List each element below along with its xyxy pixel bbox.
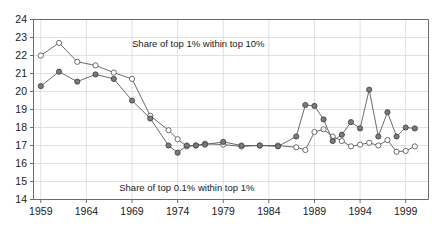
data-point-marker xyxy=(166,128,171,133)
data-point-marker xyxy=(75,79,80,84)
x-axis-tick-label: 1969 xyxy=(120,205,144,217)
data-point-marker xyxy=(56,69,61,74)
data-point-marker xyxy=(394,134,399,139)
series-annotation-label: Share of top 1% within top 10% xyxy=(132,38,265,49)
data-point-marker xyxy=(257,143,262,148)
data-point-marker xyxy=(394,149,399,154)
data-point-marker xyxy=(412,144,417,149)
data-point-marker xyxy=(303,147,308,152)
series-line xyxy=(41,43,415,152)
x-axis-tick-label: 1959 xyxy=(29,205,53,217)
data-point-marker xyxy=(38,53,43,58)
x-axis-tick-label: 1999 xyxy=(394,205,418,217)
data-point-marker xyxy=(312,129,317,134)
data-series xyxy=(38,40,417,155)
series-line xyxy=(41,72,415,153)
data-point-marker xyxy=(348,120,353,125)
data-point-marker xyxy=(129,76,134,81)
data-point-marker xyxy=(148,116,153,121)
data-point-marker xyxy=(111,70,116,75)
data-point-marker xyxy=(321,127,326,132)
data-point-marker xyxy=(221,139,226,144)
data-point-marker xyxy=(376,134,381,139)
data-point-marker xyxy=(184,143,189,148)
annotations: Share of top 1% within top 10%Share of t… xyxy=(119,38,265,193)
y-axis-tick-label: 20 xyxy=(15,85,27,97)
data-point-marker xyxy=(357,126,362,131)
x-axis-tick-label: 1979 xyxy=(212,205,236,217)
x-axis-tick-label: 1984 xyxy=(257,205,281,217)
data-point-marker xyxy=(385,138,390,143)
data-point-marker xyxy=(93,63,98,68)
data-point-marker xyxy=(56,40,61,45)
data-point-marker xyxy=(129,98,134,103)
y-axis-tick-label: 21 xyxy=(15,67,27,79)
data-point-marker xyxy=(175,137,180,142)
data-point-marker xyxy=(403,148,408,153)
data-point-marker xyxy=(321,117,326,122)
data-point-marker xyxy=(75,59,80,64)
data-point-marker xyxy=(348,144,353,149)
x-axis-tick-label: 1964 xyxy=(75,205,99,217)
y-axis-tick-label: 15 xyxy=(15,175,27,187)
data-point-marker xyxy=(376,143,381,148)
y-axis-tick-label: 19 xyxy=(15,103,27,115)
y-axis-tick-label: 16 xyxy=(15,157,27,169)
x-axis-tick-label: 1974 xyxy=(166,205,190,217)
data-point-marker xyxy=(357,142,362,147)
data-point-marker xyxy=(412,126,417,131)
data-point-marker xyxy=(294,134,299,139)
y-axis-tick-label: 22 xyxy=(15,49,27,61)
data-point-marker xyxy=(339,138,344,143)
data-point-marker xyxy=(367,140,372,145)
y-axis-tick-label: 24 xyxy=(15,13,27,25)
y-axis-tick-label: 23 xyxy=(15,31,27,43)
data-point-marker xyxy=(367,87,372,92)
data-point-marker xyxy=(166,143,171,148)
data-point-marker xyxy=(403,125,408,130)
series-annotation-label: Share of top 0.1% within top 1% xyxy=(119,182,255,193)
x-axis-tick-label: 1994 xyxy=(348,205,372,217)
data-point-marker xyxy=(239,143,244,148)
data-point-marker xyxy=(303,102,308,107)
data-point-marker xyxy=(38,84,43,89)
line-chart: 1415161718192021222324195919641969197419… xyxy=(0,0,441,236)
series-1 xyxy=(38,40,417,154)
data-point-marker xyxy=(339,132,344,137)
x-axis-tick-label: 1989 xyxy=(303,205,327,217)
chart-container: 1415161718192021222324195919641969197419… xyxy=(0,0,441,236)
data-point-marker xyxy=(275,144,280,149)
data-point-marker xyxy=(312,103,317,108)
data-point-marker xyxy=(93,72,98,77)
data-point-marker xyxy=(111,76,116,81)
y-axis-tick-label: 14 xyxy=(15,193,27,205)
y-axis-tick-label: 18 xyxy=(15,121,27,133)
data-point-marker xyxy=(294,145,299,150)
data-point-marker xyxy=(175,150,180,155)
data-point-marker xyxy=(202,142,207,147)
y-axis-tick-label: 17 xyxy=(15,139,27,151)
data-point-marker xyxy=(330,138,335,143)
data-point-marker xyxy=(385,110,390,115)
data-point-marker xyxy=(193,143,198,148)
